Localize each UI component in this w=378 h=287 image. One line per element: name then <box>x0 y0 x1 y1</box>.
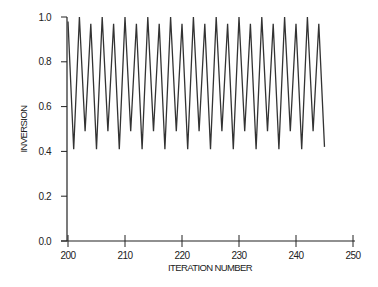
x-tick-label: 210 <box>117 250 133 261</box>
y-tick-label: 0.6 <box>39 101 52 112</box>
x-tick-label: 240 <box>288 250 304 261</box>
y-tick-label: 0.2 <box>39 191 52 202</box>
x-tick-label: 220 <box>174 250 190 261</box>
inversion-chart: 0.00.20.40.60.81.0 200210220230240250 IN… <box>0 0 378 287</box>
y-tick-label: 0.0 <box>39 236 52 247</box>
x-tick-label: 230 <box>231 250 247 261</box>
y-axis-label: INVERSION <box>18 105 29 153</box>
x-tick-label: 200 <box>60 250 76 261</box>
x-axis-label: ITERATION NUMBER <box>168 262 253 273</box>
y-axis: 0.00.20.40.60.81.0 <box>39 12 67 247</box>
x-axis: 200210220230240250 <box>60 235 361 261</box>
y-tick-label: 1.0 <box>39 12 52 23</box>
x-tick-label: 250 <box>345 250 361 261</box>
inversion-line <box>68 17 325 149</box>
y-tick-label: 0.4 <box>39 146 52 157</box>
y-tick-label: 0.8 <box>39 56 52 67</box>
